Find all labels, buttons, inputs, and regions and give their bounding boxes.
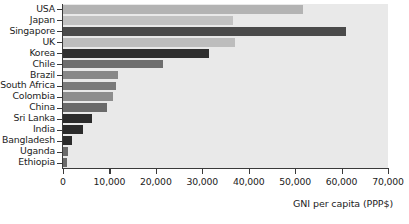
- x-axis-tick-label: 10,000: [94, 176, 126, 187]
- bar: [63, 125, 83, 134]
- x-axis-title: GNI per capita (PPP$): [293, 198, 393, 209]
- bar-row: [63, 26, 388, 37]
- x-axis-tick: [202, 169, 203, 174]
- x-axis-tick: [295, 169, 296, 174]
- bar-row: [63, 157, 388, 168]
- y-axis-tick: [57, 86, 62, 87]
- bar: [63, 103, 107, 112]
- bar-row: [63, 48, 388, 59]
- category-label: Korea: [0, 48, 59, 59]
- x-axis-tick-label: 60,000: [326, 176, 358, 187]
- bar: [63, 49, 209, 58]
- bar-row: [63, 124, 388, 135]
- y-axis-tick: [57, 97, 62, 98]
- bar-row: [63, 91, 388, 102]
- bar: [63, 147, 68, 156]
- x-axis-tick: [109, 169, 110, 174]
- x-axis-tick-label: 50,000: [279, 176, 311, 187]
- x-axis-tick-label: 0: [60, 176, 66, 187]
- bar-row: [63, 70, 388, 81]
- bar-row: [63, 113, 388, 124]
- x-axis-tick-label: 30,000: [186, 176, 218, 187]
- bar-series: [63, 4, 388, 168]
- bar-row: [63, 4, 388, 15]
- y-axis-tick: [57, 53, 62, 54]
- bar: [63, 5, 303, 14]
- x-axis-tick-label: 20,000: [140, 176, 172, 187]
- bar: [63, 114, 92, 123]
- bar: [63, 38, 235, 47]
- bar-row: [63, 135, 388, 146]
- y-axis-tick: [57, 9, 62, 10]
- y-axis-tick: [57, 64, 62, 65]
- x-axis-line: [62, 168, 389, 169]
- y-axis-tick: [57, 20, 62, 21]
- bar: [63, 71, 118, 80]
- y-axis-tick: [57, 141, 62, 142]
- y-axis-tick: [57, 119, 62, 120]
- category-label: Chile: [0, 59, 59, 70]
- category-axis-labels: USAJapanSingaporeUKKoreaChileBrazilSouth…: [0, 4, 59, 168]
- x-axis-tick: [63, 169, 64, 174]
- y-axis-tick: [57, 31, 62, 32]
- y-axis-tick: [57, 42, 62, 43]
- bar: [63, 92, 113, 101]
- y-axis-tick: [57, 130, 62, 131]
- bar-row: [63, 102, 388, 113]
- bar: [63, 136, 72, 145]
- y-axis-tick: [57, 163, 62, 164]
- category-label: Ethiopia: [0, 157, 59, 168]
- bar-chart: USAJapanSingaporeUKKoreaChileBrazilSouth…: [0, 0, 409, 224]
- y-axis-tick: [57, 152, 62, 153]
- bar: [63, 82, 116, 91]
- bar: [63, 60, 163, 69]
- x-axis-tick-label: 40,000: [233, 176, 265, 187]
- x-axis-tick: [342, 169, 343, 174]
- bar: [63, 27, 346, 36]
- bar-row: [63, 80, 388, 91]
- plot-area: [63, 4, 388, 168]
- y-axis-tick: [57, 75, 62, 76]
- bar: [63, 158, 67, 167]
- y-axis-line: [62, 4, 63, 169]
- bar-row: [63, 146, 388, 157]
- x-axis-tick: [388, 169, 389, 174]
- x-axis-tick: [156, 169, 157, 174]
- bar-row: [63, 59, 388, 70]
- x-axis-tick-label: 70,000: [372, 176, 404, 187]
- bar: [63, 16, 233, 25]
- bar-row: [63, 15, 388, 26]
- x-axis-tick: [249, 169, 250, 174]
- y-axis-tick: [57, 108, 62, 109]
- bar-row: [63, 37, 388, 48]
